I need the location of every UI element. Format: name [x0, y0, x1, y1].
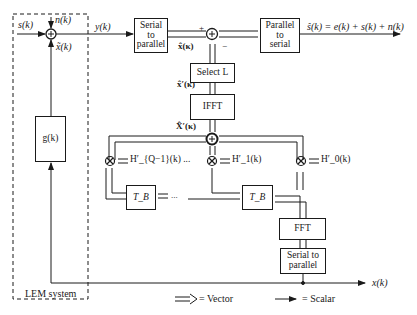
- block-serial-to-parallel-top: Serial to parallel: [134, 18, 168, 53]
- block-g: g(k): [35, 116, 66, 162]
- legend-vector: = Vector: [199, 294, 233, 304]
- block-delay-right: T_B: [242, 185, 273, 210]
- block-serial-to-parallel-bottom: Serial to parallel: [280, 248, 326, 274]
- lem-system-label: LEM system: [25, 289, 76, 299]
- s2p-bottom-line2: parallel: [287, 261, 319, 271]
- block-ifft: IFFT: [190, 94, 235, 120]
- filter-h-0: H′_0(k): [321, 155, 351, 165]
- select-l-label: Select L: [197, 68, 228, 78]
- legend-scalar: = Scalar: [302, 294, 335, 304]
- block-g-label: g(k): [43, 134, 59, 144]
- signal-n: n(k): [55, 15, 71, 25]
- signal-x-hat: x̂(κ): [178, 42, 194, 51]
- signal-X-hat-prime: X̂′(κ): [176, 122, 196, 131]
- signal-y: y(k): [95, 22, 111, 32]
- delay-right-label: T_B: [250, 193, 266, 203]
- signal-x: x(k): [372, 278, 388, 288]
- plus-sign: +: [199, 24, 204, 33]
- minus-sign: −: [222, 42, 227, 51]
- signal-x-tilde: x̃(k): [56, 42, 72, 52]
- signal-s: s(k): [18, 20, 33, 30]
- s2p-top-line3: parallel: [137, 40, 165, 50]
- signal-output: ŝ(k) = e(k) + s(k) + n(k): [307, 22, 404, 32]
- block-select-l: Select L: [190, 63, 235, 83]
- filter-h-q-minus-1: H′_{Q−1}(k) ...: [130, 155, 190, 165]
- block-fft: FFT: [279, 218, 326, 240]
- p2s-line3: serial: [265, 40, 294, 50]
- delay-left-label: T_B: [133, 193, 149, 203]
- delay-ellipsis: ...: [171, 191, 178, 200]
- fft-label: FFT: [294, 224, 310, 234]
- block-delay-left: T_B: [126, 185, 156, 210]
- ifft-label: IFFT: [203, 102, 223, 112]
- filter-h-1: H′_1(k): [232, 155, 262, 165]
- block-parallel-to-serial: Parallel to serial: [260, 18, 300, 53]
